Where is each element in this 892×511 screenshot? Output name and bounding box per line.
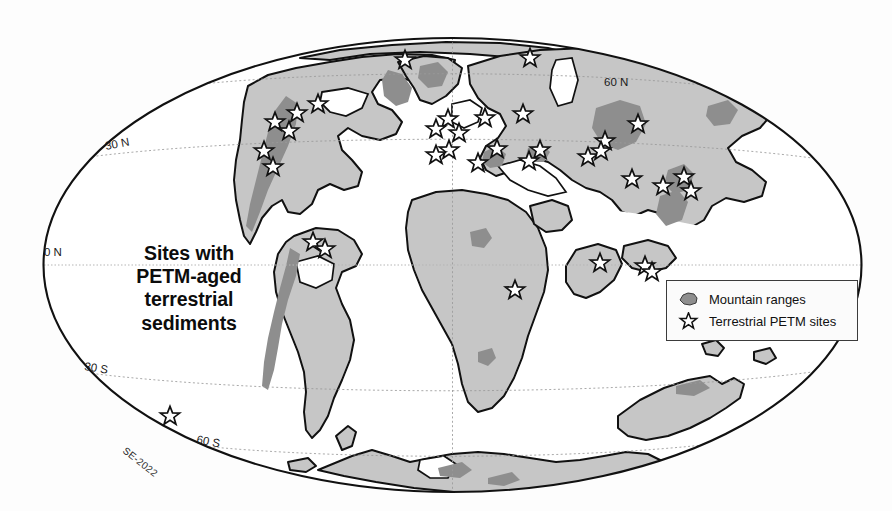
- lat-label-0n: 0 N: [44, 246, 62, 258]
- map-title-block: Sites with PETM-aged terrestrial sedimen…: [96, 242, 282, 335]
- petm-site-star-icon: [677, 313, 700, 329]
- paleogeographic-map-figure: 60 N 30 N 0 N 30 S 60 S SE-2022 Sites wi…: [0, 0, 892, 511]
- map-legend: Mountain ranges Terrestrial PETM sites: [666, 280, 858, 341]
- title-line-3: terrestrial: [96, 288, 282, 311]
- title-line-2: PETM-aged: [96, 265, 282, 288]
- legend-row-mountain-ranges: Mountain ranges: [677, 288, 848, 310]
- title-line-1: Sites with: [96, 242, 282, 265]
- legend-label-petm-sites: Terrestrial PETM sites: [709, 314, 836, 329]
- mountain-range-icon: [677, 291, 700, 307]
- lat-label-30s: 30 S: [84, 360, 110, 376]
- legend-row-petm-sites: Terrestrial PETM sites: [677, 310, 848, 332]
- lat-label-60n: 60 N: [604, 76, 628, 88]
- title-line-4: sediments: [96, 312, 282, 335]
- legend-label-mountain-ranges: Mountain ranges: [709, 292, 806, 307]
- credit-label: SE-2022: [121, 445, 160, 479]
